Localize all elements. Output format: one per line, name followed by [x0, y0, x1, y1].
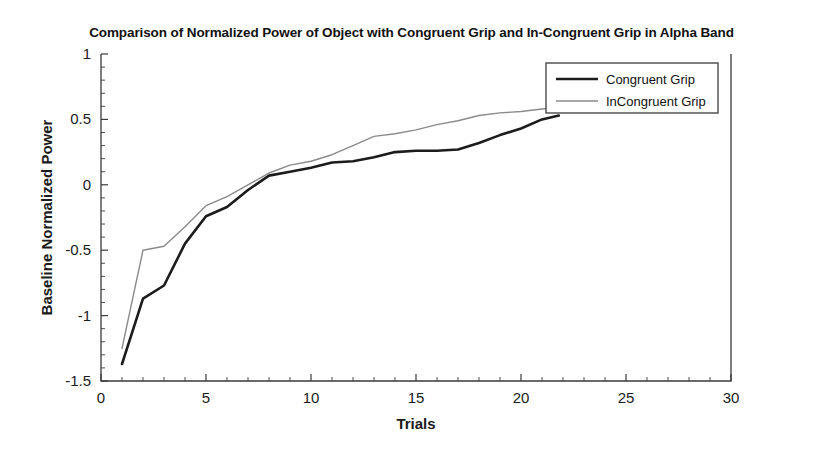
figure-canvas: Comparison of Normalized Power of Object… [0, 0, 823, 455]
legend[interactable]: Congruent GripInCongruent Grip [546, 63, 718, 113]
y-tick-label: 0.5 [70, 110, 91, 127]
x-tick-label: 10 [303, 389, 320, 406]
y-tick-label: -0.5 [65, 241, 91, 258]
y-tick-label: 0 [83, 176, 91, 193]
y-tick-label: 1 [83, 45, 91, 62]
y-tick-label: -1 [78, 307, 91, 324]
x-axis-label: Trials [396, 415, 435, 432]
x-tick-label: 30 [723, 389, 740, 406]
data-series-group [122, 108, 559, 364]
x-tick-label: 20 [513, 389, 530, 406]
y-tick-label: -1.5 [65, 372, 91, 389]
x-tick-label: 5 [202, 389, 210, 406]
x-tick-label: 15 [408, 389, 425, 406]
x-tick-label: 25 [618, 389, 635, 406]
legend-label-congruent[interactable]: Congruent Grip [606, 72, 695, 87]
y-axis-label: Baseline Normalized Power [38, 119, 55, 315]
legend-label-incongruent[interactable]: InCongruent Grip [606, 94, 706, 109]
line-chart: 051015202530-1.5-1-0.500.51TrialsBaselin… [0, 0, 823, 455]
series-line-incongruent [122, 108, 559, 349]
series-line-congruent [122, 115, 559, 364]
x-tick-label: 0 [97, 389, 105, 406]
